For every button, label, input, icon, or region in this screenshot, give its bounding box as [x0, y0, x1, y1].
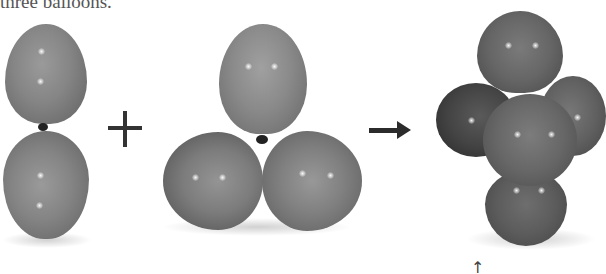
highlight — [327, 172, 334, 179]
balloon-top — [219, 24, 307, 134]
highlight — [219, 174, 226, 181]
balloon-left — [163, 132, 263, 230]
balloon-knot — [256, 135, 268, 144]
highlight — [37, 78, 44, 85]
up-arrow-icon: ↑ — [471, 260, 484, 274]
highlight — [299, 170, 306, 177]
highlight — [271, 63, 278, 70]
balloon-center — [483, 94, 577, 186]
highlight — [192, 174, 199, 181]
balloon-bottom — [3, 131, 89, 239]
balloon-knot — [38, 123, 48, 131]
highlight — [574, 114, 581, 121]
balloon-top — [5, 24, 87, 124]
highlight — [532, 42, 539, 49]
balloon-top — [477, 11, 563, 93]
highlight — [514, 131, 521, 138]
highlight — [468, 117, 475, 124]
highlight — [38, 48, 45, 55]
highlight — [36, 202, 43, 209]
balloon-figure: ↑ — [0, 0, 606, 274]
highlight — [513, 187, 520, 194]
highlight — [548, 131, 555, 138]
highlight — [538, 187, 545, 194]
highlight — [37, 172, 44, 179]
balloon-right — [262, 131, 362, 231]
highlight — [505, 42, 512, 49]
highlight — [245, 63, 252, 70]
